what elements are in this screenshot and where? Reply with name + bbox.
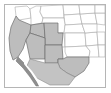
state-south-dakota	[64, 14, 82, 25]
state-missouri-area	[85, 32, 98, 46]
state-minnesota-area	[80, 13, 97, 24]
state-montana	[40, 5, 64, 18]
state-ontario-area	[95, 5, 105, 13]
state-north-dakota	[63, 5, 80, 15]
southwest-us-map	[5, 5, 105, 87]
state-oklahoma	[65, 46, 90, 57]
state-arizona	[26, 33, 45, 59]
state-illinois-area	[97, 32, 105, 45]
state-kansas	[65, 33, 86, 47]
map-thumbnail-container: Southwestern United States highlighted r…	[0, 0, 111, 93]
state-manitoba-area	[79, 5, 95, 14]
state-tennessee-area	[98, 45, 105, 57]
state-nebraska	[64, 24, 85, 33]
map-title: Southwestern United States highlighted r…	[0, 0, 1, 1]
map-frame	[4, 4, 106, 88]
state-iowa-area	[82, 24, 97, 33]
